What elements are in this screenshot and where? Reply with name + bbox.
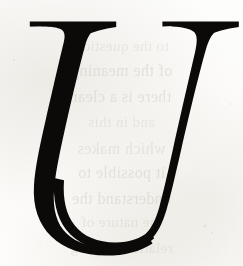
- glyph-container: Large italic serif capital letter U: [0, 0, 243, 266]
- scanned-page-canvas: to the questionof the meaningthere is a …: [0, 0, 243, 266]
- right-stem-and-serif-path: [146, 22, 238, 240]
- initial-capital-u-icon: Large italic serif capital letter U: [0, 0, 243, 266]
- left-stem-and-serif-path: [30, 22, 152, 255]
